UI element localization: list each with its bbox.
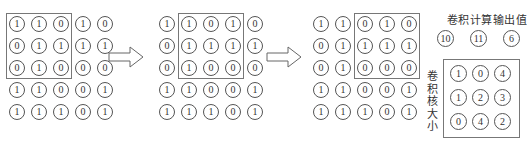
output-title: 卷积计算输出值 xyxy=(447,11,527,27)
matrix-cell: 1 xyxy=(97,82,113,98)
output-value: 11 xyxy=(470,30,487,47)
kernel-cell: 4 xyxy=(472,113,489,130)
matrix-cell: 0 xyxy=(75,104,91,120)
matrix-cell: 1 xyxy=(31,104,47,120)
matrix-cell: 0 xyxy=(75,82,91,98)
output-value: 10 xyxy=(437,30,454,47)
matrix-cell: 1 xyxy=(335,104,351,120)
matrix-cell: 0 xyxy=(53,82,69,98)
kernel-cell: 1 xyxy=(450,65,467,82)
matrix-cell: 0 xyxy=(159,38,175,54)
output-value: 6 xyxy=(503,30,520,47)
matrix-cell: 1 xyxy=(313,82,329,98)
kernel-cell: 0 xyxy=(450,113,467,130)
matrix-cell: 0 xyxy=(247,60,263,76)
matrix-cell: 0 xyxy=(313,60,329,76)
matrix-cell: 1 xyxy=(31,82,47,98)
matrix-cell: 1 xyxy=(335,16,351,32)
matrix-cell: 1 xyxy=(75,16,91,32)
matrix-cell: 1 xyxy=(401,104,417,120)
matrix-cell: 1 xyxy=(357,104,373,120)
matrix-cell: 0 xyxy=(75,60,91,76)
kernel-cell: 3 xyxy=(494,89,511,106)
matrix-cell: 1 xyxy=(181,82,197,98)
matrix-cell: 0 xyxy=(203,82,219,98)
matrix-cell: 1 xyxy=(75,38,91,54)
matrix-cell: 1 xyxy=(335,82,351,98)
matrix-cell: 0 xyxy=(225,82,241,98)
right-arrow-icon xyxy=(266,46,302,68)
matrix-cell: 1 xyxy=(335,38,351,54)
matrix-cell: 1 xyxy=(335,60,351,76)
matrix-cell: 1 xyxy=(159,82,175,98)
kernel-cell: 4 xyxy=(494,65,511,82)
kernel-matrix: 1 0 4 1 2 3 0 4 2 xyxy=(443,59,520,138)
kernel-cell: 1 xyxy=(450,89,467,106)
matrix-cell: 0 xyxy=(159,60,175,76)
matrix-cell: 1 xyxy=(159,16,175,32)
matrix-cell: 1 xyxy=(247,82,263,98)
matrix-cell: 1 xyxy=(203,104,219,120)
matrix-cell: 1 xyxy=(9,104,25,120)
matrix-cell: 1 xyxy=(159,104,175,120)
sliding-window-box xyxy=(178,13,244,79)
matrix-cell: 0 xyxy=(379,82,395,98)
matrix-cell: 1 xyxy=(53,104,69,120)
matrix-cell: 0 xyxy=(247,16,263,32)
matrix-cell: 1 xyxy=(247,38,263,54)
matrix-cell: 1 xyxy=(9,82,25,98)
matrix-cell: 0 xyxy=(313,38,329,54)
kernel-label: 卷积核大小 xyxy=(426,70,438,133)
matrix-cell: 0 xyxy=(225,104,241,120)
matrix-cell: 1 xyxy=(247,104,263,120)
sliding-window-box xyxy=(354,13,420,79)
matrix-cell: 0 xyxy=(97,16,113,32)
matrix-cell: 1 xyxy=(97,104,113,120)
kernel-cell: 0 xyxy=(472,65,489,82)
matrix-cell: 0 xyxy=(379,104,395,120)
matrix-cell: 1 xyxy=(181,104,197,120)
kernel-cell: 2 xyxy=(472,89,489,106)
sliding-window-box xyxy=(6,13,72,79)
matrix-cell: 1 xyxy=(313,16,329,32)
kernel-cell: 2 xyxy=(494,113,511,130)
matrix-cell: 0 xyxy=(357,82,373,98)
matrix-cell: 1 xyxy=(401,82,417,98)
right-arrow-icon xyxy=(108,46,144,68)
matrix-cell: 1 xyxy=(313,104,329,120)
